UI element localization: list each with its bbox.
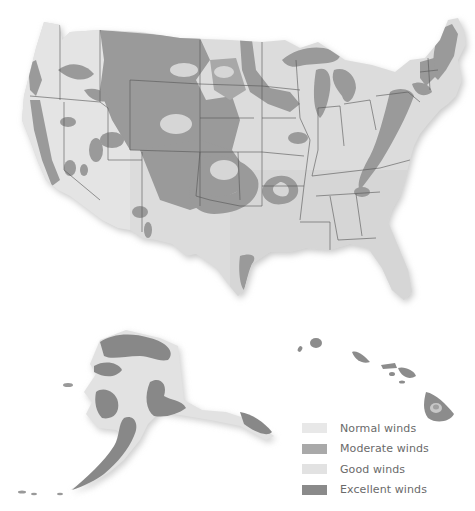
legend-label: Moderate winds [340, 442, 429, 455]
legend-label: Normal winds [340, 422, 416, 435]
normal-winds-swatch [302, 423, 327, 433]
hawaii [297, 338, 454, 421]
good-winds-swatch [302, 464, 327, 474]
moderate-winds-swatch [302, 444, 327, 454]
legend-item-excellent: Excellent winds [302, 481, 472, 499]
excellent-winds-swatch [302, 485, 327, 495]
legend-item-good: Good winds [302, 460, 472, 478]
contiguous-us [0, 0, 475, 320]
legend-item-normal: Normal winds [302, 419, 472, 437]
legend-label: Excellent winds [340, 483, 427, 496]
alaska [18, 330, 276, 495]
legend-label: Good winds [340, 463, 405, 476]
legend-item-moderate: Moderate winds [302, 440, 472, 458]
legend: Normal winds Moderate winds Good winds E… [302, 419, 472, 501]
